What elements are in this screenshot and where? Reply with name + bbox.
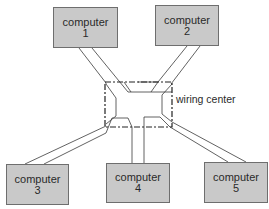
computer-3-number: 3 — [34, 185, 40, 196]
computer-5-box: computer 5 — [204, 162, 268, 203]
computer-2-number: 2 — [184, 26, 190, 37]
computer-2-box: computer 2 — [155, 5, 219, 46]
cable-computer-1 — [79, 48, 106, 84]
computer-2-label: computer — [164, 15, 210, 26]
computer-1-box: computer 1 — [53, 7, 118, 48]
computer-3-box: computer 3 — [6, 164, 69, 205]
computer-4-box: computer 4 — [106, 163, 170, 203]
wiring-center-label: wiring center — [176, 93, 236, 105]
computer-5-number: 5 — [233, 183, 239, 194]
computer-1-label: computer — [63, 17, 109, 28]
computer-4-number: 4 — [135, 183, 141, 194]
computer-3-label: computer — [15, 174, 61, 185]
computer-5-label: computer — [213, 172, 259, 183]
computer-1-number: 1 — [82, 28, 88, 39]
